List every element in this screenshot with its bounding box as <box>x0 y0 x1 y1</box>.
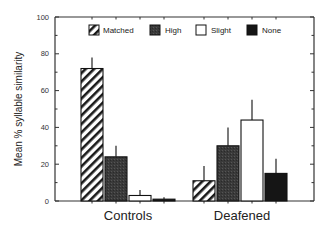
legend-swatch-slight <box>196 25 206 35</box>
bar-group-controls <box>81 57 175 201</box>
y-axis-title: Mean % syllable similarity <box>13 52 24 166</box>
legend-swatch-high <box>150 25 160 35</box>
bar-chart: 020406080100 Mean % syllable similarity … <box>0 0 331 232</box>
y-tick-label: 20 <box>41 160 49 169</box>
legend-label-high: High <box>165 26 181 35</box>
legend-swatch-none <box>247 25 257 35</box>
category-label-controls: Controls <box>104 208 153 223</box>
bar-controls-slight <box>129 195 151 201</box>
y-tick-label: 100 <box>36 13 49 22</box>
bar-deafened-none <box>265 173 287 201</box>
bar-group-deafened <box>193 100 287 201</box>
category-label-deafened: Deafened <box>214 208 270 223</box>
legend-item-matched: Matched <box>89 25 134 35</box>
legend-item-slight: Slight <box>196 25 232 35</box>
legend: Matched High Slight None <box>89 25 282 35</box>
legend-item-high: High <box>150 25 181 35</box>
y-tick-label: 40 <box>41 123 49 132</box>
y-tick-label: 60 <box>41 86 49 95</box>
bar-controls-none <box>153 199 175 201</box>
legend-swatch-matched <box>89 25 99 35</box>
bars <box>81 57 287 201</box>
legend-label-slight: Slight <box>211 26 232 35</box>
bar-deafened-matched <box>193 181 215 201</box>
legend-label-none: None <box>262 26 282 35</box>
legend-item-none: None <box>247 25 282 35</box>
y-tick-label: 0 <box>45 197 49 206</box>
bar-deafened-slight <box>241 120 263 201</box>
legend-label-matched: Matched <box>103 26 134 35</box>
bar-controls-matched <box>81 69 103 201</box>
y-tick-labels: 020406080100 <box>36 13 49 206</box>
y-tick-label: 80 <box>41 49 49 58</box>
bar-controls-high <box>105 157 127 201</box>
bar-deafened-high <box>217 146 239 201</box>
